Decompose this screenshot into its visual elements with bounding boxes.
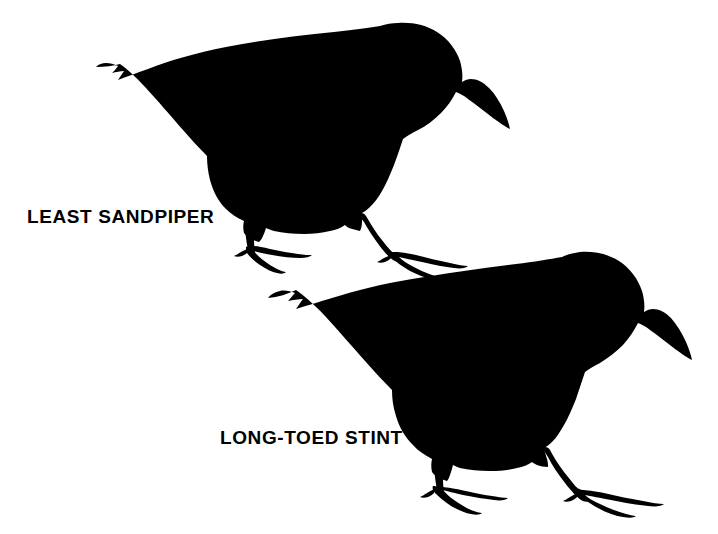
species-label-least-sandpiper: LEAST SANDPIPER bbox=[27, 207, 214, 226]
species-label-long-toed-stint: LONG-TOED STINT bbox=[220, 428, 403, 447]
illustration-plate: LEAST SANDPIPER LONG-TOED STINT bbox=[0, 0, 718, 534]
bird-silhouettes-svg bbox=[0, 0, 718, 534]
